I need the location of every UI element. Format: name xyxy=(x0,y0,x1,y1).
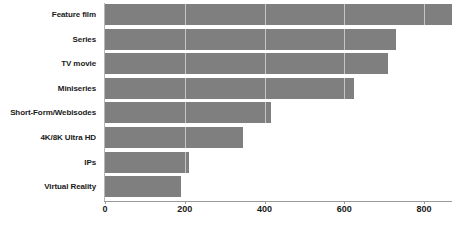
bar xyxy=(105,29,396,50)
bar-row xyxy=(105,53,452,78)
category-label: Short-Form/Webisodes xyxy=(0,102,100,123)
category-label: TV movie xyxy=(0,53,100,74)
bar xyxy=(105,152,189,173)
bar xyxy=(105,53,388,74)
bar-row xyxy=(105,102,452,127)
category-label: Series xyxy=(0,29,100,50)
bar-row xyxy=(105,152,452,177)
x-tick-label: 600 xyxy=(337,204,352,214)
bar xyxy=(105,102,271,123)
x-tick-mark xyxy=(105,201,106,204)
bar-row xyxy=(105,78,452,103)
bar xyxy=(105,4,452,25)
category-label: IPs xyxy=(0,152,100,173)
category-label: Miniseries xyxy=(0,78,100,99)
category-axis-labels: Feature filmSeriesTV movieMiniseriesShor… xyxy=(0,4,100,201)
x-tick-mark xyxy=(185,201,186,204)
bar-row xyxy=(105,176,452,201)
bar-series xyxy=(105,4,452,201)
bar xyxy=(105,78,354,99)
plot-area xyxy=(105,4,452,201)
bar-row xyxy=(105,29,452,54)
x-tick-mark xyxy=(344,201,345,204)
x-axis-line xyxy=(104,201,452,202)
x-tick-label: 200 xyxy=(177,204,192,214)
category-label: 4K/8K Ultra HD xyxy=(0,127,100,148)
bar-row xyxy=(105,127,452,152)
x-tick-label: 400 xyxy=(257,204,272,214)
bar-chart: Feature filmSeriesTV movieMiniseriesShor… xyxy=(0,0,456,229)
bar xyxy=(105,176,181,197)
x-axis-tick-labels: 0200400600800 xyxy=(0,204,456,220)
x-tick-mark xyxy=(265,201,266,204)
category-label: Virtual Reality xyxy=(0,176,100,197)
category-label: Feature film xyxy=(0,4,100,25)
x-tick-label: 800 xyxy=(417,204,432,214)
x-tick-label: 0 xyxy=(102,204,107,214)
x-tick-mark xyxy=(424,201,425,204)
bar xyxy=(105,127,243,148)
bar-row xyxy=(105,4,452,29)
